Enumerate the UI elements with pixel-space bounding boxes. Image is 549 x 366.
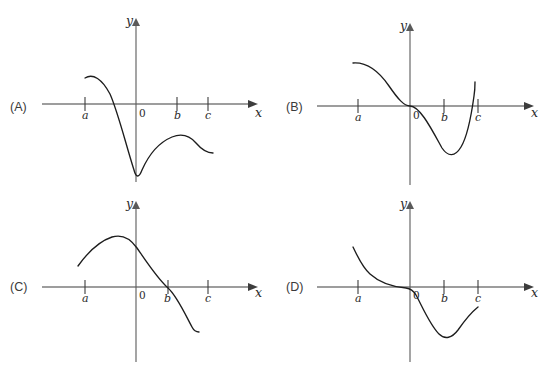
panel-d-label: (D) <box>286 280 303 294</box>
panel-c-x-axis-label: x <box>255 285 262 300</box>
panel-a-x-axis-label: x <box>255 105 262 120</box>
panel-c-tick-label-a: a <box>82 292 89 305</box>
panel-a-origin-label: 0 <box>139 107 146 119</box>
panel-a-curve <box>85 76 213 176</box>
panel-a-tick-label-a: a <box>82 109 89 122</box>
panel-d-tick-label-b: b <box>441 292 448 305</box>
panel-a-label: (A) <box>10 100 27 114</box>
panel-b-tick-label-a: a <box>355 111 362 124</box>
panel-b-x-axis-label: x <box>531 105 538 120</box>
panel-b-y-axis-arrow <box>406 23 414 31</box>
panel-a-tick-label-b: b <box>174 109 181 122</box>
panel-d-tick-label-a: a <box>355 292 362 305</box>
panel-c-y-axis-label: y <box>125 196 134 211</box>
panel-a-tick-label-c: c <box>205 109 211 122</box>
panel-a: (A) x y 0 a b c <box>10 13 262 182</box>
panel-d-x-axis-label: x <box>531 285 538 300</box>
panel-c-tick-label-c: c <box>205 292 211 305</box>
panel-d-tick-label-c: c <box>475 292 481 305</box>
panel-d-y-axis-arrow <box>406 201 414 209</box>
panel-c-label: (C) <box>10 280 27 294</box>
panel-c: (C) x y 0 a b c <box>10 196 262 362</box>
panel-b-tick-label-c: c <box>475 111 481 124</box>
panel-b-y-axis-label: y <box>399 18 408 33</box>
panel-d: (D) x y 0 a b c <box>286 196 538 362</box>
panel-b: (B) x y 0 a b c <box>286 18 538 185</box>
panel-b-label: (B) <box>286 100 303 114</box>
panel-d-y-axis-label: y <box>399 196 408 211</box>
panel-b-tick-label-b: b <box>441 111 448 124</box>
panel-a-y-axis-arrow <box>132 18 140 26</box>
panel-c-curve <box>78 236 199 332</box>
panel-c-tick-label-b: b <box>164 292 171 305</box>
panel-a-y-axis-label: y <box>125 13 134 28</box>
panel-c-y-axis-arrow <box>132 201 140 209</box>
multi-panel-graph-figure: (A) x y 0 a b c (B) x y 0 a b c <box>0 0 549 366</box>
panel-c-origin-label: 0 <box>139 289 146 301</box>
